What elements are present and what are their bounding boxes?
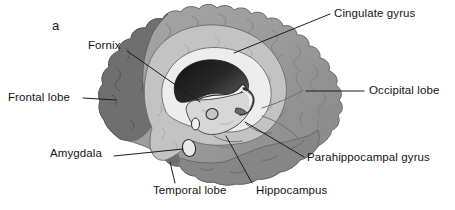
label-temporal-lobe: Temporal lobe bbox=[153, 184, 227, 197]
mammillary-body-shape bbox=[192, 118, 200, 130]
label-hippocampus: Hippocampus bbox=[256, 184, 327, 197]
label-parahippocampal-gyrus: Parahippocampal gyrus bbox=[307, 151, 430, 164]
label-cingulate-gyrus: Cingulate gyrus bbox=[334, 7, 415, 20]
brain-illustration bbox=[0, 0, 455, 210]
label-occipital-lobe: Occipital lobe bbox=[369, 84, 439, 97]
figure-brain-medial-view: a Fornix Cingulate gyrus Frontal lobe Oc… bbox=[0, 0, 455, 210]
label-fornix: Fornix bbox=[88, 39, 121, 52]
label-frontal-lobe: Frontal lobe bbox=[8, 91, 70, 104]
panel-letter: a bbox=[52, 19, 59, 32]
label-amygdala: Amygdala bbox=[50, 147, 102, 160]
